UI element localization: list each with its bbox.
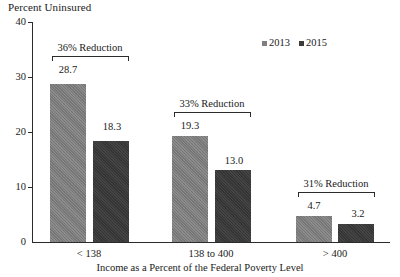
x-axis-title: Income as a Percent of the Federal Pover… [0, 262, 400, 273]
bar-2015-138to400[interactable] [215, 170, 251, 242]
y-tick-label-30: 30 [4, 71, 26, 82]
y-axis-title: Percent Uninsured [8, 1, 91, 13]
value-label-2015-1: 18.3 [92, 121, 132, 132]
legend-swatch-icon-2013 [262, 41, 267, 46]
bar-2013-gt400[interactable] [296, 216, 332, 242]
legend-item-2013[interactable]: 2013 [262, 38, 290, 49]
y-tick-label-20: 20 [4, 126, 26, 137]
value-label-2013-3: 4.7 [294, 200, 334, 211]
x-tick-label-gt400: > 400 [295, 248, 375, 259]
reduction-label-3: 31% Reduction [286, 178, 386, 189]
legend-label-2015: 2015 [306, 38, 327, 49]
legend-item-2015[interactable]: 2015 [299, 38, 327, 49]
value-label-2013-2: 19.3 [170, 120, 210, 131]
y-tick-label-40: 40 [4, 16, 26, 27]
value-label-2015-3: 3.2 [338, 208, 378, 219]
bar-2015-gt400[interactable] [338, 224, 374, 242]
bar-2013-138to400[interactable] [172, 136, 208, 242]
bar-2015-lt138[interactable] [93, 141, 129, 242]
y-tick-mark-10 [28, 187, 32, 188]
y-tick-mark-40 [28, 22, 32, 23]
legend-swatch-icon-2015 [299, 41, 304, 46]
y-tick-mark-30 [28, 77, 32, 78]
y-tick-label-10: 10 [4, 181, 26, 192]
y-tick-label-0: 0 [4, 236, 26, 247]
bar-2013-lt138[interactable] [50, 84, 86, 242]
x-tick-label-138to400: 138 to 400 [171, 248, 251, 259]
value-label-2015-2: 13.0 [214, 155, 254, 166]
x-tick-label-lt138: < 138 [49, 248, 129, 259]
x-axis-line [32, 242, 390, 243]
reduction-label-2: 33% Reduction [162, 98, 262, 109]
reduction-label-1: 36% Reduction [40, 42, 140, 53]
y-tick-mark-20 [28, 132, 32, 133]
y-axis-line [32, 22, 33, 242]
legend-label-2013: 2013 [269, 38, 290, 49]
bar-chart: Percent Uninsured 40 30 20 10 0 2013 201… [0, 0, 400, 277]
legend: 2013 2015 [262, 38, 327, 49]
value-label-2013-1: 28.7 [48, 64, 88, 75]
